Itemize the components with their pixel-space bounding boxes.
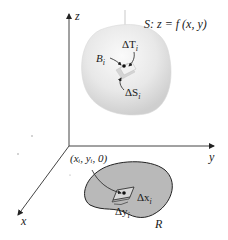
b-text: B [96, 52, 103, 64]
point-coordinates-label: (xᵢ, yᵢ, 0) [70, 153, 107, 164]
point-b-i [122, 64, 126, 68]
delta-y-label: Δyi [115, 206, 130, 220]
z-axis-label: z [75, 10, 80, 22]
b-sub: i [103, 58, 105, 67]
surface-area-diagram: z y x S: z = f (x, y) ΔTi Bi ΔSi (xᵢ, yᵢ… [0, 0, 228, 240]
delta-x-label: Δxi [137, 192, 152, 206]
b-i-label: Bi [96, 53, 105, 67]
x-axis [18, 146, 69, 215]
speck [17, 153, 18, 154]
speck [31, 135, 32, 136]
point-xi-yi [122, 191, 126, 195]
delta-x-text: Δx [137, 191, 150, 203]
x-axis-label: x [21, 215, 26, 227]
delta-y-sub: i [128, 211, 130, 220]
delta-t-label: ΔTi [122, 39, 138, 53]
delta-s-label: ΔSi [125, 87, 140, 101]
region-r-label: R [155, 218, 162, 230]
delta-t-sub: i [136, 44, 138, 53]
delta-x-sub: i [150, 197, 152, 206]
delta-s-sub: i [138, 92, 140, 101]
delta-y-text: Δy [115, 205, 128, 217]
delta-s-text: ΔS [125, 86, 138, 98]
speck [69, 174, 70, 175]
delta-t-text: ΔT [122, 38, 136, 50]
y-axis-label: y [209, 151, 214, 163]
surface-equation: S: z = f (x, y) [144, 18, 207, 30]
diagram-canvas [0, 0, 228, 240]
